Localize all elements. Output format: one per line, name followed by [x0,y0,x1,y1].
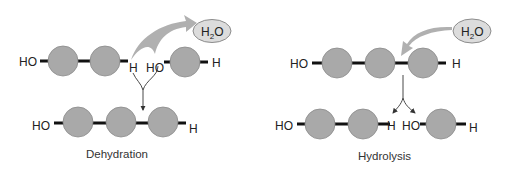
dehydration-panel: H2O HO H HO H HO [19,15,231,160]
hydrogen-label: H [212,56,221,70]
monomer [365,48,395,78]
monomer [408,48,438,78]
monomer [106,107,136,137]
reactant-chain-left: HO H [19,46,138,76]
monomer [348,109,378,139]
hydrogen-label: H [452,57,461,71]
product-chain-right: HO H [402,109,478,139]
diverge-arrow-icon [393,75,415,113]
monomer [63,107,93,137]
hydroxyl-group-label: HO [275,119,293,133]
product-chain-left: HO H [275,109,396,139]
hydrogen-label: H [189,122,198,136]
polymer-reactions-diagram: H2O HO H HO H HO [0,0,512,174]
monomer [48,46,78,76]
monomer [322,48,352,78]
monomer [426,109,456,139]
hydroxyl-group-label: HO [19,55,37,69]
reactant-chain: HO H [290,48,461,78]
hydroxyl-group-label: HO [290,57,308,71]
monomer [90,46,120,76]
hydrogen-label: H [387,119,396,133]
monomer [305,109,335,139]
hydroxyl-group-label: HO [146,61,164,75]
reactant-chain-right: HO H [146,47,221,77]
hydrolysis-caption: Hydrolysis [358,150,411,162]
monomer [148,107,178,137]
water-molecule-added: H2O [453,19,491,43]
hydroxyl-group-label: HO [402,119,420,133]
product-chain: HO H [32,107,198,137]
hydroxyl-group-label: HO [32,119,50,133]
monomer [170,47,200,77]
water-molecule-released: H2O [193,20,231,43]
hydrogen-label: H [469,121,478,135]
dehydration-caption: Dehydration [86,148,148,160]
hydrolysis-panel: H2O HO H HO H HO [275,19,491,162]
